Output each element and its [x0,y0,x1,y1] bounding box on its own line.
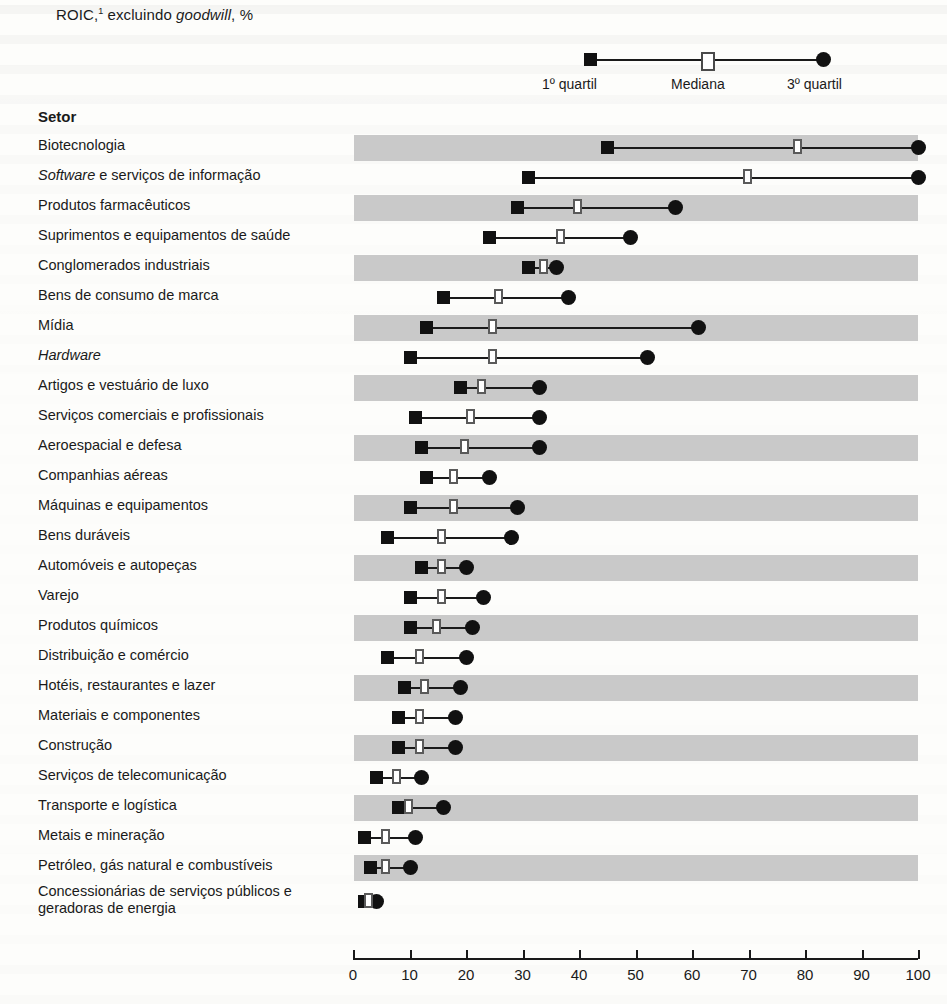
row-label-text: Serviços de telecomunicação [38,767,227,783]
marker-q1 [404,351,417,364]
marker-q1 [364,861,377,874]
marker-median [743,169,752,184]
marker-q3 [510,500,525,515]
marker-median [556,229,565,244]
marker-q3 [476,590,491,605]
row-label-text: Conglomerados industriais [38,257,210,273]
chart-row: Concessionárias de serviços públicos e g… [0,883,947,923]
marker-median [381,859,390,874]
marker-median [449,469,458,484]
chart-row: Hotéis, restaurantes e lazer [0,673,947,703]
row-label: Materiais e componentes [38,707,200,724]
row-label-text: Transporte e logística [38,797,177,813]
legend-label-median: Mediana [671,76,725,92]
x-axis-tick [749,950,751,959]
row-label: Suprimentos e equipamentos de saúde [38,227,290,244]
marker-q1 [370,771,383,784]
row-label: Hotéis, restaurantes e lazer [38,677,215,694]
chart-row: Metais e mineração [0,823,947,853]
marker-median [460,439,469,454]
open-square-icon [701,52,715,71]
chart-row: Software e serviços de informação [0,163,947,193]
chart-title-suffix: , % [231,6,253,23]
x-axis-tick [353,950,355,959]
row-label-text: Metais e mineração [38,827,165,843]
marker-q1 [454,381,467,394]
legend: 1º quartil Mediana 3º quartil [0,46,947,102]
row-label-text: Serviços comerciais e profissionais [38,407,264,423]
chart-row: Bens duráveis [0,523,947,553]
row-label-text: Bens duráveis [38,527,130,543]
marker-q3 [465,620,480,635]
row-label: Varejo [38,587,79,604]
marker-q1 [404,621,417,634]
row-label: Bens de consumo de marca [38,287,219,304]
row-label: Aeroespacial e defesa [38,437,182,454]
row-label: Bens duráveis [38,527,130,544]
row-label: Serviços de telecomunicação [38,767,227,784]
row-label: Software e serviços de informação [38,167,260,184]
row-label: Máquinas e equipamentos [38,497,208,514]
marker-median [381,829,390,844]
x-axis-tick-label: 100 [905,966,930,983]
quartile-range-line [398,747,455,749]
row-label-text: Produtos químicos [38,617,158,633]
chart-row: Materiais e componentes [0,703,947,733]
chart-row: Mídia [0,313,947,343]
row-label: Metais e mineração [38,827,165,844]
marker-median [793,139,802,154]
row-label: Concessionárias de serviços públicos e g… [38,883,348,917]
marker-q1 [409,411,422,424]
chart-title-italic: goodwill [176,6,231,23]
marker-median [415,649,424,664]
x-axis-tick-label: 10 [401,966,418,983]
row-label-text: Companhias aéreas [38,467,168,483]
row-label: Automóveis e autopeças [38,557,197,574]
marker-q1 [511,201,524,214]
quartile-range-line [410,357,647,359]
row-label-text: Máquinas e equipamentos [38,497,208,513]
row-label-text: Varejo [38,587,79,603]
quartile-range-line [460,387,539,389]
row-label-text: Hotéis, restaurantes e lazer [38,677,215,693]
row-label: Construção [38,737,112,754]
marker-q3 [482,470,497,485]
row-label-text: Biotecnologia [38,137,125,153]
row-label: Biotecnologia [38,137,125,154]
chart-row: Produtos químicos [0,613,947,643]
marker-q3 [448,710,463,725]
quartile-range-line [443,297,567,299]
legend-label-q1: 1º quartil [542,76,597,92]
x-axis-tick-label: 0 [349,966,357,983]
marker-q1 [398,681,411,694]
row-label-text: e serviços de informação [95,167,260,183]
marker-q3 [691,320,706,335]
marker-q1 [522,261,535,274]
filled-square-icon [584,53,597,66]
row-label-text: Distribuição e comércio [38,647,189,663]
quartile-range-line [415,417,539,419]
marker-median [466,409,475,424]
quartile-range-line [528,177,918,179]
marker-q3 [414,770,429,785]
x-axis-tick [918,950,920,959]
chart-row: Construção [0,733,947,763]
x-axis-tick [410,950,412,959]
chart-row: Automóveis e autopeças [0,553,947,583]
x-axis-tick-label: 50 [627,966,644,983]
marker-q3 [504,530,519,545]
marker-q1 [483,231,496,244]
marker-q3 [403,860,418,875]
chart-row: Conglomerados industriais [0,253,947,283]
chart-rows: BiotecnologiaSoftware e serviços de info… [0,133,947,923]
x-axis-tick [466,950,468,959]
marker-q3 [459,560,474,575]
quartile-range-line [607,147,918,149]
marker-q1 [392,711,405,724]
row-label: Mídia [38,317,73,334]
marker-q1 [601,141,614,154]
marker-median [437,559,446,574]
row-band [354,375,918,401]
x-axis-tick [579,950,581,959]
marker-q3 [911,170,926,185]
